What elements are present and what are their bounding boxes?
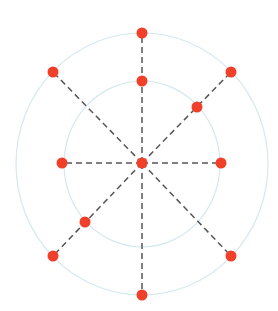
- spoke-up-left: [53, 72, 142, 163]
- center-point: [137, 158, 148, 169]
- outer-bottom-point: [137, 290, 148, 301]
- outer-upper-right-point: [226, 67, 237, 78]
- radial-diagram: [0, 0, 278, 311]
- spoke-down-left: [53, 163, 142, 256]
- inner-right-point: [216, 158, 227, 169]
- inner-upper-right-point: [192, 102, 203, 113]
- inner-lower-left-point: [80, 217, 91, 228]
- inner-left-point: [57, 158, 68, 169]
- outer-lower-left-point: [48, 251, 59, 262]
- outer-top-point: [137, 28, 148, 39]
- spoke-up-right: [142, 72, 231, 163]
- outer-upper-left-point: [48, 67, 59, 78]
- spoke-down-right: [142, 163, 231, 256]
- inner-top-point: [137, 76, 148, 87]
- outer-lower-right-point: [226, 251, 237, 262]
